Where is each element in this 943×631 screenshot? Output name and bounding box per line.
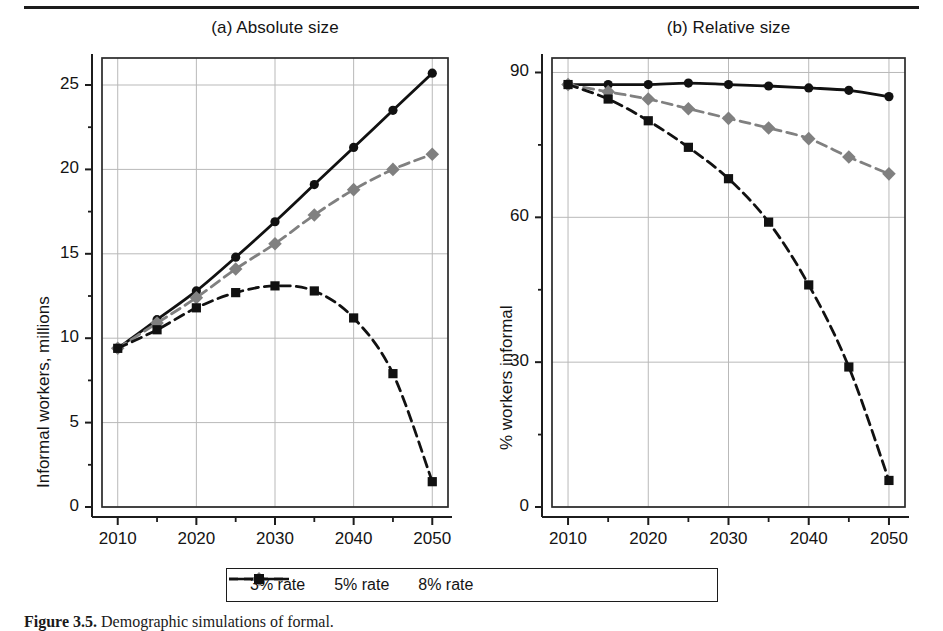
- y-tick-label: 90: [483, 61, 529, 81]
- x-tick-label: 2040: [774, 529, 844, 549]
- x-tick-label: 2020: [161, 529, 231, 549]
- y-tick-label: 25: [33, 74, 79, 94]
- y-tick-label: 5: [33, 412, 79, 432]
- legend-item-1[interactable]: 5% rate: [329, 576, 389, 594]
- figure-caption-number: Figure 3.5.: [24, 613, 97, 630]
- x-tick-label: 2010: [533, 529, 603, 549]
- y-tick-label: 10: [33, 327, 79, 347]
- y-tick-label: 0: [483, 496, 529, 516]
- x-tick-label: 2040: [319, 529, 389, 549]
- y-tick-label: 0: [33, 496, 79, 516]
- figure-caption-text: Demographic simulations of formal.: [101, 613, 334, 630]
- x-tick-label: 2010: [83, 529, 153, 549]
- chart-legend: 3% rate 5% rate 8% rate: [226, 568, 718, 602]
- x-tick-label: 2050: [854, 529, 924, 549]
- legend-label-1: 5% rate: [334, 576, 389, 594]
- figure-caption: Figure 3.5. Demographic simulations of f…: [24, 613, 334, 631]
- legend-item-2[interactable]: 8% rate: [413, 576, 473, 594]
- x-tick-label: 2020: [613, 529, 683, 549]
- y-tick-label: 20: [33, 158, 79, 178]
- legend-label-2: 8% rate: [418, 576, 473, 594]
- legend-swatch-dashed-square-icon: [227, 569, 291, 589]
- y-tick-label: 15: [33, 243, 79, 263]
- y-tick-label: 30: [483, 351, 529, 371]
- y-tick-label: 60: [483, 206, 529, 226]
- x-tick-label: 2030: [694, 529, 764, 549]
- x-tick-label: 2030: [240, 529, 310, 549]
- x-tick-label: 2050: [397, 529, 467, 549]
